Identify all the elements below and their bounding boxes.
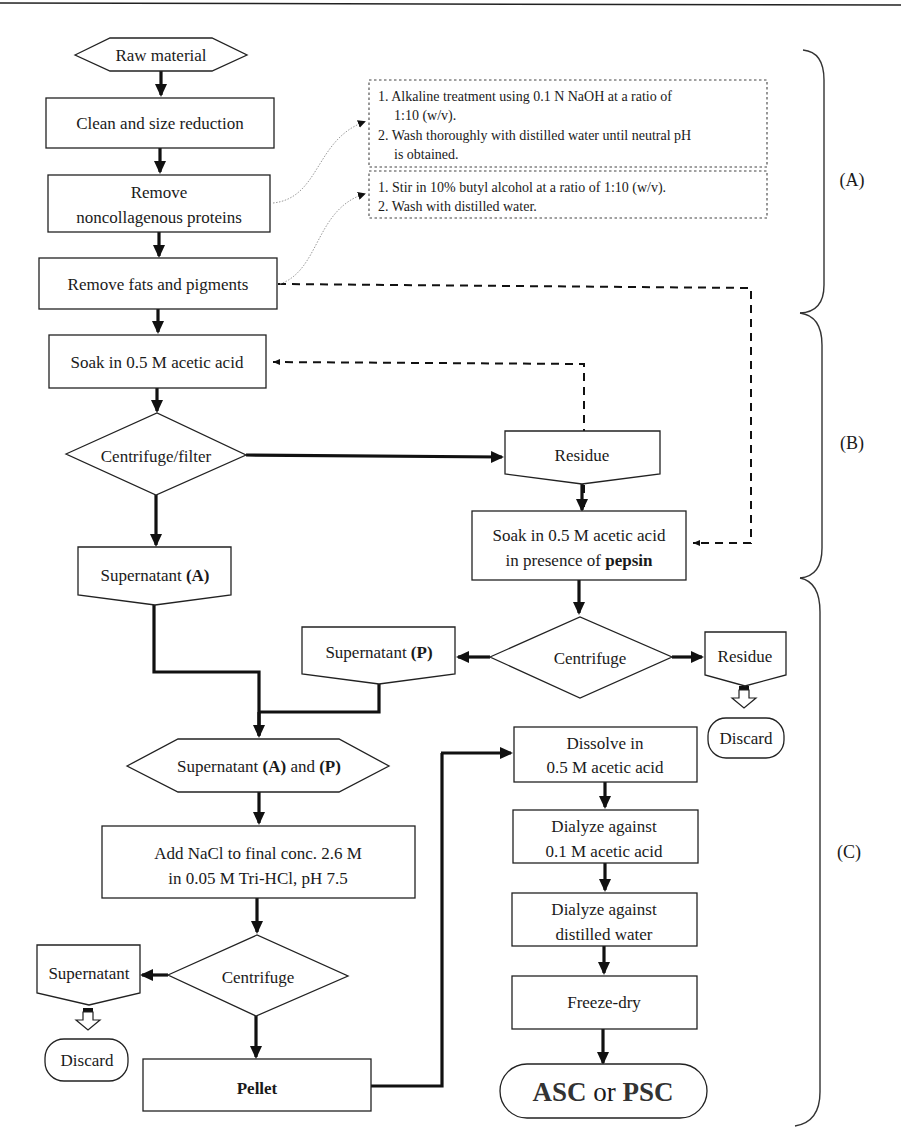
svg-text:Dialyze against: Dialyze against [551,817,657,836]
top-border-line [0,3,901,5]
node-freeze-dry: Freeze-dry [512,976,697,1029]
node-remove-fats-pigments: Remove fats and pigments [39,258,277,309]
note-connectors [273,122,364,284]
svg-text:Discard: Discard [720,729,773,748]
section-label-c: (C) [837,842,861,863]
svg-text:Supernatant: Supernatant [48,964,129,983]
note-alkaline-treatment: 1. Alkaline treatment using 0.1 N NaOH a… [369,80,767,167]
svg-text:Clean and size reduction: Clean and size reduction [76,114,244,133]
svg-text:Dissolve in: Dissolve in [567,734,644,753]
svg-text:1. Alkaline treatment using 0.: 1. Alkaline treatment using 0.1 N NaOH a… [378,89,672,104]
svg-text:Add NaCl to final conc. 2.6 M: Add NaCl to final conc. 2.6 M [154,844,362,863]
svg-text:ASC or PSC: ASC or PSC [532,1077,673,1107]
node-supernatant-nacl: Supernatant [37,945,140,1005]
svg-text:Centrifuge: Centrifuge [554,649,627,668]
svg-text:is obtained.: is obtained. [394,147,459,162]
svg-text:noncollagenous proteins: noncollagenous proteins [76,208,242,227]
node-soak-acetic-acid: Soak in 0.5 M acetic acid [49,335,266,388]
svg-text:Discard: Discard [61,1051,114,1070]
svg-text:2. Wash with distilled water.: 2. Wash with distilled water. [378,199,537,214]
svg-text:Supernatant (P): Supernatant (P) [325,643,432,662]
svg-text:Remove: Remove [131,183,188,202]
node-clean-size-reduction: Clean and size reduction [46,98,274,148]
flowchart-canvas: Raw material Clean and size reduction Re… [0,0,901,1148]
node-pellet: Pellet [143,1059,371,1111]
node-discard-residue: Discard [708,718,784,758]
section-braces [795,50,824,1126]
node-centrifuge-filter: Centrifuge/filter [66,413,246,495]
svg-text:Raw material: Raw material [115,46,206,65]
svg-text:in 0.05 M Tri-HCl, pH 7.5: in 0.05 M Tri-HCl, pH 7.5 [168,869,347,888]
svg-text:Remove fats and pigments: Remove fats and pigments [68,275,249,294]
brace-a [800,50,824,313]
node-dialyze-acetic-acid: Dialyze against 0.1 M acetic acid [513,810,698,863]
note-butyl-alcohol: 1. Stir in 10% butyl alcohol at a ratio … [369,171,767,218]
svg-text:Supernatant (A) and (P): Supernatant (A) and (P) [177,757,341,776]
svg-text:Supernatant (A): Supernatant (A) [100,566,209,585]
node-raw-material: Raw material [75,38,247,71]
node-residue-pepsin: Residue [705,632,786,686]
brace-b [800,313,822,578]
svg-text:Residue: Residue [555,446,610,465]
node-dialyze-distilled-water: Dialyze against distilled water [512,893,697,946]
node-supernatant-a: Supernatant (A) [78,547,231,605]
svg-text:Centrifuge/filter: Centrifuge/filter [101,447,212,466]
node-combined-supernatant: Supernatant (A) and (P) [127,739,389,792]
svg-text:Centrifuge: Centrifuge [222,968,295,987]
node-centrifuge-nacl: Centrifuge [168,935,348,1016]
node-discard-supernatant: Discard [45,1039,128,1081]
svg-text:in presence of pepsin: in presence of pepsin [506,551,653,570]
node-dissolve: Dissolve in 0.5 M acetic acid [514,727,697,782]
node-add-nacl: Add NaCl to final conc. 2.6 M in 0.05 M … [102,826,415,898]
node-supernatant-p: Supernatant (P) [302,627,455,684]
dashed-feedback-lines [273,284,751,543]
node-residue: Residue [505,431,660,484]
section-label-b: (B) [840,433,864,454]
svg-text:0.1 M acetic acid: 0.1 M acetic acid [545,842,663,861]
svg-text:Soak in 0.5 M acetic acid: Soak in 0.5 M acetic acid [493,526,666,545]
svg-text:Pellet: Pellet [237,1079,278,1098]
svg-text:Soak in 0.5 M acetic acid: Soak in 0.5 M acetic acid [71,353,244,372]
svg-text:Residue: Residue [718,647,773,666]
svg-text:2. Wash thoroughly with distil: 2. Wash thoroughly with distilled water … [378,128,691,143]
svg-text:1:10 (w/v).: 1:10 (w/v). [394,108,456,124]
svg-text:0.5 M acetic acid: 0.5 M acetic acid [546,758,664,777]
svg-text:Freeze-dry: Freeze-dry [567,993,641,1012]
section-label-a: (A) [840,170,865,191]
node-centrifuge-pepsin: Centrifuge [490,617,672,698]
svg-text:distilled water: distilled water [556,925,653,944]
svg-text:1. Stir in 10% butyl alcohol a: 1. Stir in 10% butyl alcohol at a ratio … [378,180,666,196]
brace-c [795,578,820,1126]
node-final-product: ASC or PSC [500,1064,707,1118]
node-soak-pepsin: Soak in 0.5 M acetic acid in presence of… [472,511,686,580]
node-remove-noncollagenous-proteins: Remove noncollagenous proteins [48,175,270,232]
svg-text:Dialyze against: Dialyze against [551,900,657,919]
